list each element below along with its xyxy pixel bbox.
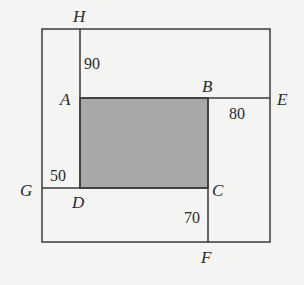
label-e: E (276, 90, 288, 109)
label-g: G (20, 181, 32, 200)
label-h: H (72, 7, 87, 26)
length-gd: 50 (50, 167, 66, 184)
label-c: C (212, 181, 224, 200)
label-f: F (200, 248, 212, 267)
diagram-canvas: H A B E G D C F 90 80 50 70 (0, 0, 304, 285)
label-d: D (71, 193, 85, 212)
length-be: 80 (229, 105, 245, 122)
label-b: B (202, 77, 213, 96)
length-ha: 90 (84, 55, 100, 72)
square-diagram: H A B E G D C F 90 80 50 70 (0, 0, 304, 285)
length-cf: 70 (184, 209, 200, 226)
label-a: A (59, 90, 71, 109)
shaded-rectangle-abcd (80, 98, 208, 188)
